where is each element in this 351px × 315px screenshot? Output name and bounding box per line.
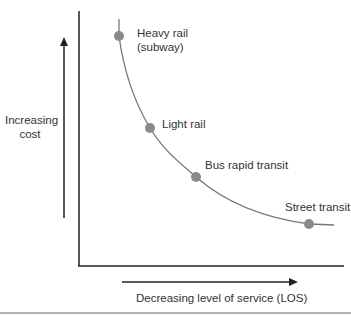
label-heavy-rail-line2: (subway) <box>137 40 188 54</box>
label-street-transit: Street transit <box>285 200 350 214</box>
y-axis-label-line1: Increasing <box>5 113 55 127</box>
label-bus-rapid-transit: Bus rapid transit <box>205 158 288 172</box>
los-arrow-head <box>289 278 298 286</box>
point-bus-rapid-transit <box>191 172 201 182</box>
label-heavy-rail: Heavy rail (subway) <box>137 26 188 54</box>
label-light-rail: Light rail <box>162 117 205 131</box>
label-heavy-rail-line1: Heavy rail <box>137 26 188 40</box>
y-axis-label: Increasing cost <box>5 113 55 141</box>
point-light-rail <box>145 123 155 133</box>
point-street-transit <box>304 219 314 229</box>
x-axis-label: Decreasing level of service (LOS) <box>136 291 307 305</box>
y-axis-label-line2: cost <box>5 127 55 141</box>
point-heavy-rail <box>114 31 124 41</box>
cost-arrow-head <box>60 37 68 46</box>
